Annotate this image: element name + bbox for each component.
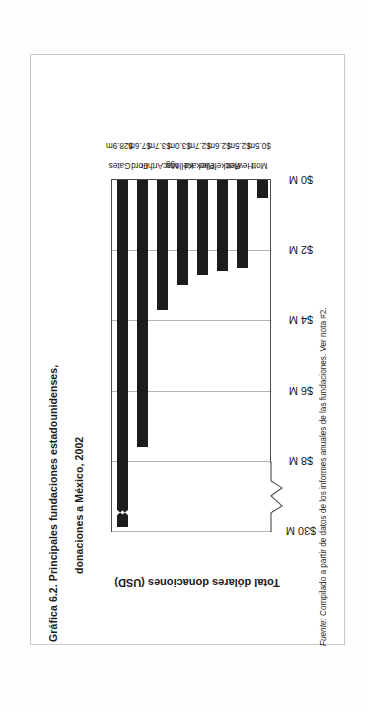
y-axis-break-zigzag-icon (270, 462, 284, 532)
y-tick-4m: $4 M (277, 314, 325, 326)
bar-ford (137, 180, 148, 447)
category-label-gates: Gates (90, 161, 150, 170)
y-tick-6m: $6 M (277, 385, 325, 397)
y-tick-30m: $30 M (277, 525, 325, 537)
bar-kellogg (177, 180, 188, 285)
bar-gates (117, 180, 128, 527)
plot-area (111, 179, 271, 532)
y-axis-title: Total dólares donaciones (USD) (72, 577, 322, 589)
source-text: Compilado a partir de datos de los infor… (319, 307, 328, 618)
bar-macarthur (157, 180, 168, 310)
y-tick-2m: $2 M (277, 244, 325, 256)
bar-mott (257, 180, 268, 198)
source-label: Fuente: (319, 618, 328, 646)
figure-rotation-wrapper: Gráfica 6.2. Principales fundaciones est… (27, 61, 342, 652)
gridline-30m (112, 531, 270, 532)
gridline-8m (112, 461, 270, 462)
figure: Gráfica 6.2. Principales fundaciones est… (27, 61, 342, 652)
bar-rockefeller (217, 180, 228, 271)
scanned-page: Gráfica 6.2. Principales fundaciones est… (0, 0, 369, 713)
axis-break-marker-icon (116, 504, 129, 519)
y-tick-0m: $0 M (277, 174, 325, 186)
bar-hewlett (237, 180, 248, 268)
value-label-gates: $28.9m (90, 141, 150, 150)
plot-inner (112, 180, 270, 531)
source-note: Fuente: Compilado a partir de datos de l… (319, 66, 328, 646)
bar-packard (197, 180, 208, 275)
chart-title-line-1: Gráfica 6.2. Principales fundaciones est… (47, 212, 59, 642)
chart-title-line-2: donaciones a México, 2002 (73, 174, 85, 574)
y-tick-8m: $8 M (277, 455, 325, 467)
